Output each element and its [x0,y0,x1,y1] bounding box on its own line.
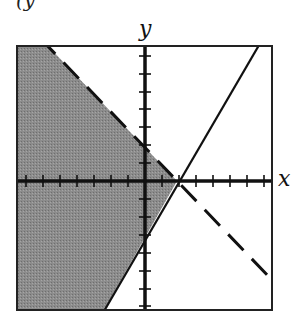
shaded-region [17,46,177,310]
inequality-graph [0,0,306,329]
